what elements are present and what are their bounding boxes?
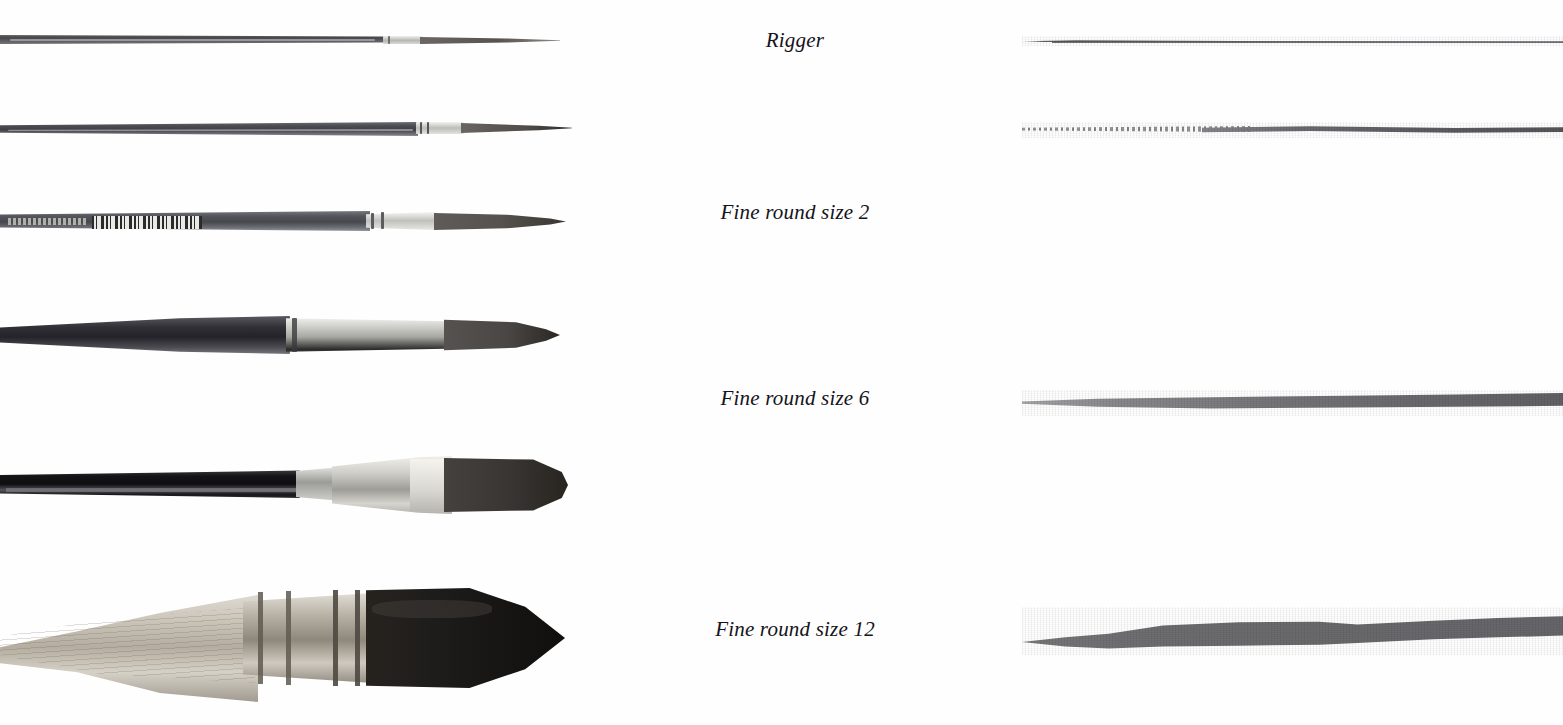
brush-photo-fine-round-6 [0,204,566,240]
brush-ferrule [416,122,464,134]
quill-wire-band-3 [333,590,338,686]
brush-bristle-tip [420,37,560,44]
brush-handle-highlight [10,39,375,41]
brush-bristle-tip [434,213,566,230]
quill-wire-band-2 [286,591,291,685]
brush-ferrule [286,316,446,354]
brush-photo-flat-ox-hair [0,442,568,526]
brush-ferrule-neck [296,466,336,502]
brush-handle-print [8,218,88,225]
quill-wire-band-1 [258,592,263,684]
quill-wire-band-4 [355,590,360,686]
paint-stroke-fine-round-2 [1022,122,1563,138]
brush-bristle-flat-head [444,458,568,512]
brush-ferrule-band [420,122,422,134]
brush-barcode-sticker [92,216,202,229]
brush-bristle-mop-sheen [372,600,492,618]
chart-row-rigger: Rigger [0,0,1563,92]
brush-comparison-chart: Rigger Fine round size 2 [0,0,1563,725]
brush-handle [0,121,418,137]
chart-row-fine-round-12: Fine round size 12 [0,292,1563,422]
chart-row-flat-ox-hair: Flat ox-hair 2.5cm (1in) [0,422,1563,562]
chart-row-large-round-squirrel: Large round squirrel [0,562,1563,725]
chart-row-fine-round-6: Fine round size 6 [0,184,1563,292]
brush-bristle-tip [461,123,572,133]
brush-photo-large-round-squirrel [0,562,565,712]
brush-bristle-tip [444,319,560,351]
brush-photo-rigger [0,28,560,50]
brush-label-rigger: Rigger [620,28,970,53]
brush-handle-grain [0,602,255,688]
brush-photo-fine-round-12 [0,304,560,364]
brush-handle [0,316,290,354]
brush-ferrule [366,212,436,230]
brush-handle [0,470,300,498]
brush-photo-fine-round-2 [0,117,572,143]
brush-ferrule-band [371,213,374,229]
brush-ferrule-band-2 [427,122,429,134]
chart-row-fine-round-2: Fine round size 2 [0,92,1563,184]
brush-handle-highlight [6,488,296,492]
brush-ferrule-band-2 [381,212,384,229]
brush-ferrule-band [388,36,390,44]
brush-ferrule-band [292,318,297,352]
paint-stroke-rigger [1022,36,1563,46]
brush-ferrule-clamp [410,459,444,511]
